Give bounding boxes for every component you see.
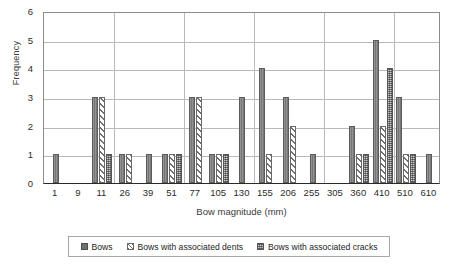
x-tick-label-155: 155 bbox=[257, 187, 273, 198]
bar-105-series-1 bbox=[216, 154, 222, 183]
bar-1-series-0 bbox=[53, 154, 59, 183]
bar-group-9 bbox=[67, 13, 90, 183]
bar-510-series-1 bbox=[403, 154, 409, 183]
x-tick-label-305: 305 bbox=[327, 187, 343, 198]
bar-39-series-0 bbox=[146, 154, 152, 183]
legend-label-1: Bows with associated dents bbox=[138, 242, 244, 252]
bar-51-series-2 bbox=[176, 154, 182, 183]
y-tick-label-1: 1 bbox=[0, 149, 33, 160]
bar-360-series-1 bbox=[356, 154, 362, 183]
bar-group-206 bbox=[278, 13, 301, 183]
y-tick-label-0: 0 bbox=[0, 178, 33, 189]
bar-155-series-1 bbox=[266, 154, 272, 183]
bar-51-series-1 bbox=[169, 154, 175, 183]
y-tick-label-4: 4 bbox=[0, 63, 33, 74]
x-axis-title: Bow magnitude (mm) bbox=[43, 206, 440, 217]
x-axis-tick-labels: 1911263951771051301552062553053604105106… bbox=[43, 187, 440, 203]
bar-group-130 bbox=[231, 13, 254, 183]
bar-77-series-0 bbox=[189, 97, 195, 183]
bar-410-series-1 bbox=[380, 126, 386, 183]
bar-206-series-0 bbox=[283, 97, 289, 183]
bar-group-39 bbox=[137, 13, 160, 183]
bar-360-series-0 bbox=[349, 126, 355, 183]
legend-item-2[interactable]: Bows with associated cracks bbox=[257, 242, 377, 252]
plot-area bbox=[43, 12, 440, 184]
bar-11-series-0 bbox=[92, 97, 98, 183]
frequency-bar-chart: Frequency 0123456 1911263951771051301552… bbox=[0, 0, 455, 270]
bar-group-11 bbox=[91, 13, 114, 183]
bar-26-series-1 bbox=[126, 154, 132, 183]
bar-77-series-1 bbox=[196, 97, 202, 183]
bar-group-360 bbox=[348, 13, 371, 183]
bar-group-105 bbox=[207, 13, 230, 183]
chart-legend: BowsBows with associated dentsBows with … bbox=[68, 236, 390, 257]
x-tick-label-11: 11 bbox=[96, 187, 106, 198]
bar-610-series-0 bbox=[426, 154, 432, 183]
bar-group-77 bbox=[184, 13, 207, 183]
bar-510-series-0 bbox=[396, 97, 402, 183]
bar-group-255 bbox=[301, 13, 324, 183]
bar-130-series-0 bbox=[239, 97, 245, 183]
bar-group-305 bbox=[324, 13, 347, 183]
x-tick-label-51: 51 bbox=[166, 187, 177, 198]
x-tick-label-510: 510 bbox=[397, 187, 413, 198]
bar-26-series-0 bbox=[119, 154, 125, 183]
y-tick-label-5: 5 bbox=[0, 35, 33, 46]
bar-360-series-2 bbox=[363, 154, 369, 183]
bar-group-26 bbox=[114, 13, 137, 183]
x-tick-label-360: 360 bbox=[350, 187, 366, 198]
bar-11-series-1 bbox=[99, 97, 105, 183]
legend-label-2: Bows with associated cracks bbox=[268, 242, 377, 252]
bar-410-series-2 bbox=[387, 68, 393, 183]
bar-group-1 bbox=[44, 13, 67, 183]
x-tick-label-206: 206 bbox=[280, 187, 296, 198]
bar-51-series-0 bbox=[162, 154, 168, 183]
bar-255-series-0 bbox=[310, 154, 316, 183]
x-tick-label-39: 39 bbox=[143, 187, 154, 198]
legend-label-0: Bows bbox=[92, 242, 113, 252]
bar-206-series-1 bbox=[290, 126, 296, 183]
y-tick-label-6: 6 bbox=[0, 6, 33, 17]
bar-155-series-0 bbox=[259, 68, 265, 183]
bar-group-155 bbox=[254, 13, 277, 183]
x-tick-label-130: 130 bbox=[234, 187, 250, 198]
bar-105-series-2 bbox=[223, 154, 229, 183]
x-tick-label-26: 26 bbox=[119, 187, 130, 198]
y-axis-tick-labels: 0123456 bbox=[0, 12, 38, 184]
y-tick-label-2: 2 bbox=[0, 121, 33, 132]
bar-group-410 bbox=[371, 13, 394, 183]
x-tick-label-105: 105 bbox=[210, 187, 226, 198]
legend-item-1[interactable]: Bows with associated dents bbox=[127, 242, 244, 252]
y-tick-label-3: 3 bbox=[0, 92, 33, 103]
x-tick-label-255: 255 bbox=[304, 187, 320, 198]
bar-11-series-2 bbox=[106, 154, 112, 183]
bar-group-610 bbox=[418, 13, 441, 183]
legend-item-0[interactable]: Bows bbox=[81, 242, 113, 252]
x-tick-label-9: 9 bbox=[75, 187, 80, 198]
bar-510-series-2 bbox=[410, 154, 416, 183]
bar-group-510 bbox=[394, 13, 417, 183]
x-tick-label-1: 1 bbox=[52, 187, 57, 198]
legend-swatch-icon-0 bbox=[81, 243, 88, 250]
legend-swatch-icon-2 bbox=[257, 243, 264, 250]
bar-group-51 bbox=[161, 13, 184, 183]
bar-105-series-0 bbox=[209, 154, 215, 183]
x-tick-label-77: 77 bbox=[189, 187, 200, 198]
x-tick-label-610: 610 bbox=[420, 187, 436, 198]
x-tick-label-410: 410 bbox=[374, 187, 390, 198]
legend-swatch-icon-1 bbox=[127, 243, 134, 250]
bar-410-series-0 bbox=[373, 40, 379, 183]
